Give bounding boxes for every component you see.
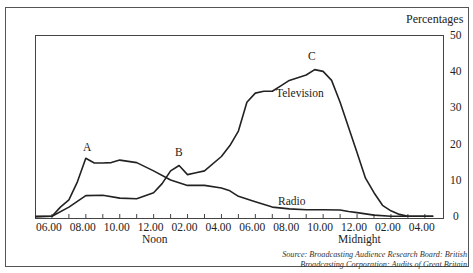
source-note: Source: Broadcasting Audience Research B… [282, 250, 467, 270]
y-tick-label: 30 [450, 101, 462, 113]
x-tick-label: 10.00 [307, 221, 333, 233]
y-axis-title: Percentages [406, 12, 463, 27]
midnight-label: Midnight [338, 233, 381, 245]
y-tick-label: 50 [450, 29, 462, 41]
x-tick-label: 06.00 [239, 221, 265, 233]
x-tick-label: 02.00 [172, 221, 198, 233]
x-tick-label: 12.00 [138, 221, 164, 233]
annotation-a: A [83, 141, 91, 153]
radio-label: Radio [278, 195, 305, 207]
noon-label: Noon [142, 233, 168, 245]
y-tick-label: 0 [453, 210, 459, 222]
source-line-1: Source: Broadcasting Audience Research B… [282, 250, 467, 260]
radio-line [35, 158, 433, 216]
x-tick-label: 04.00 [205, 221, 231, 233]
television-label: Television [276, 87, 324, 99]
x-tick-label: 12.00 [341, 221, 367, 233]
y-tick-label: 10 [450, 174, 462, 186]
x-tick-label: 08.00 [273, 221, 299, 233]
annotation-b: B [175, 146, 183, 158]
y-tick-label: 40 [450, 65, 462, 77]
source-line-2: Broadcasting Corporation: Audits of Grea… [282, 260, 467, 270]
x-tick-label: 10.00 [104, 221, 130, 233]
y-tick-label: 20 [450, 138, 462, 150]
television-line [35, 70, 433, 217]
x-tick-label: 06.00 [36, 221, 62, 233]
x-tick-label: 08.00 [70, 221, 96, 233]
annotation-c: C [308, 50, 316, 62]
x-tick-label: 04.00 [409, 221, 435, 233]
x-tick-label: 02.00 [375, 221, 401, 233]
